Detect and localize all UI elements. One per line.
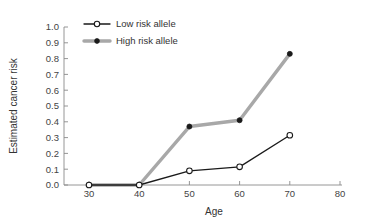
chart-figure: 0.00.10.20.30.40.50.60.70.80.91.0 304050… <box>0 0 366 222</box>
data-series-group <box>86 51 292 187</box>
y-tick-label: 0.3 <box>46 132 59 143</box>
line-chart: 0.00.10.20.30.40.50.60.70.80.91.0 304050… <box>0 0 366 222</box>
y-tick-label: 1.0 <box>46 21 59 32</box>
x-tick-label: 70 <box>285 188 296 199</box>
data-point-marker <box>237 118 242 123</box>
y-axis: 0.00.10.20.30.40.50.60.70.80.91.0 <box>46 21 68 190</box>
legend-item-label: Low risk allele <box>116 18 176 29</box>
data-point-marker <box>136 182 142 188</box>
y-tick-label: 0.9 <box>46 37 59 48</box>
x-tick-label: 30 <box>84 188 95 199</box>
data-point-marker <box>287 132 293 138</box>
legend-marker-sample <box>94 21 99 26</box>
legend-item-label: High risk allele <box>116 35 178 46</box>
data-point-marker <box>237 164 243 170</box>
y-tick-label: 0.0 <box>46 179 59 190</box>
series-line <box>89 54 290 185</box>
x-tick-label: 80 <box>335 188 346 199</box>
data-point-marker <box>187 168 193 174</box>
x-tick-label: 40 <box>134 188 145 199</box>
y-tick-label: 0.5 <box>46 100 59 111</box>
y-tick-label: 0.6 <box>46 85 59 96</box>
data-point-marker <box>86 182 92 188</box>
series-line <box>89 135 290 185</box>
x-tick-label: 50 <box>184 188 195 199</box>
y-tick-label: 0.1 <box>46 164 59 175</box>
y-axis-title: Estimated cancer risk <box>8 57 19 154</box>
data-point-marker <box>187 124 192 129</box>
y-tick-label: 0.8 <box>46 53 59 64</box>
data-point-marker <box>287 51 292 56</box>
y-tick-label: 0.7 <box>46 69 59 80</box>
x-axis-title: Age <box>205 206 223 217</box>
x-tick-label: 60 <box>234 188 245 199</box>
y-tick-label: 0.2 <box>46 148 59 159</box>
chart-legend: Low risk alleleHigh risk allele <box>84 18 178 46</box>
y-tick-label: 0.4 <box>46 116 59 127</box>
legend-marker-sample <box>95 39 100 44</box>
